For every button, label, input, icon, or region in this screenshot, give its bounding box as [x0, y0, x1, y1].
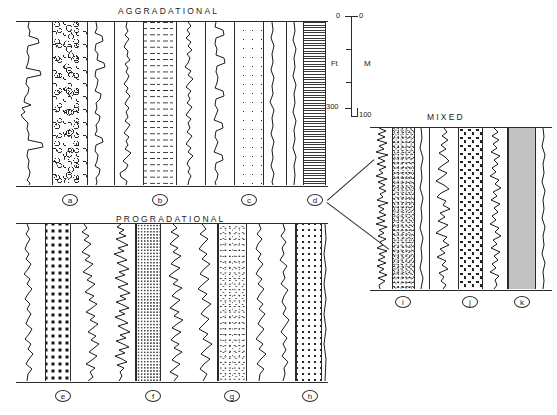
lithology-column-c — [234, 22, 264, 185]
panel-title-aggradational: AGGRADATIONAL — [118, 6, 219, 16]
log-curve-c — [206, 22, 234, 185]
log-curve-g — [247, 224, 273, 381]
scale-axis-line — [351, 16, 352, 116]
column-label-j: j — [462, 296, 478, 308]
log-curve-h — [322, 224, 328, 381]
column-label-c: c — [241, 194, 257, 206]
column-label-h: h — [302, 390, 318, 402]
lithology-column-a — [52, 22, 88, 185]
log-curve-j — [430, 128, 458, 289]
column-label-a: a — [62, 194, 78, 206]
log-curve-e2 — [71, 224, 103, 381]
log-curve-j2 — [483, 128, 507, 289]
lithology-column-j — [458, 128, 483, 289]
mixed-bottom-rule — [370, 290, 552, 291]
well-log-figure: AGGRADATIONAL — [0, 0, 557, 415]
log-curve-g2 — [273, 224, 295, 381]
panel-title-mixed: MIXED — [427, 112, 465, 122]
lithology-column-h — [296, 224, 322, 381]
column-label-g: g — [224, 390, 240, 402]
progradational-bottom-rule — [16, 382, 328, 383]
scale-label-m-top: 0 — [359, 11, 363, 20]
scale-label-ft-unit: Ft — [331, 59, 338, 68]
lithology-column-d — [303, 22, 326, 185]
log-curve-k — [536, 128, 552, 289]
column-label-b: b — [152, 194, 168, 206]
scale-label-m-bottom: 100 — [359, 110, 372, 119]
scale-meter-step — [357, 108, 358, 117]
lithology-column-g — [218, 224, 247, 381]
column-label-d: d — [307, 194, 323, 206]
log-curve-f2 — [191, 224, 217, 381]
lithology-column-i — [392, 128, 415, 289]
scale-tick-mid-2 — [346, 82, 352, 83]
scale-label-ft-top: 0 — [336, 11, 340, 20]
log-curve-b2 — [177, 22, 205, 185]
log-curve-c2 — [264, 22, 286, 185]
column-label-i: i — [395, 296, 411, 308]
log-curve-e — [16, 224, 45, 381]
column-label-f: f — [145, 390, 161, 402]
log-curve-a2 — [88, 22, 114, 185]
connector-line-upper — [327, 159, 374, 200]
column-label-e: e — [55, 390, 71, 402]
log-curve-e3 — [103, 224, 135, 381]
column-label-k: k — [514, 296, 530, 308]
log-curve-a — [16, 22, 52, 185]
scale-label-m-unit: M — [364, 59, 371, 68]
log-curve-i2 — [415, 128, 429, 289]
log-curve-f — [161, 224, 191, 381]
lithology-column-e — [45, 224, 71, 381]
scale-tick-ft-300 — [345, 108, 352, 109]
aggradational-bottom-rule — [16, 186, 328, 187]
lithology-column-f — [136, 224, 161, 381]
lithology-column-b — [143, 22, 177, 185]
scale-tick-m-0 — [351, 16, 358, 17]
log-curve-i — [370, 128, 392, 289]
scale-label-ft-bottom: 300 — [326, 102, 339, 111]
lithology-column-k — [508, 128, 536, 289]
scale-tick-mid-1 — [346, 49, 352, 50]
log-curve-d — [287, 22, 303, 185]
log-curve-b — [115, 22, 143, 185]
